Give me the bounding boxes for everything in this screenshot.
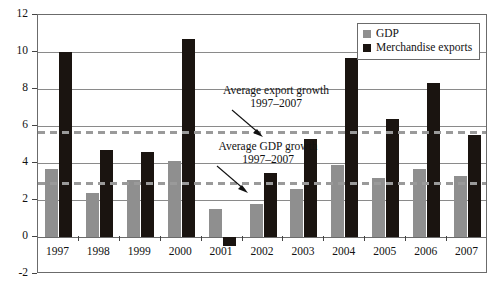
y-tick-label-8: 8	[2, 82, 28, 94]
gridline-0	[38, 237, 486, 238]
y-tick-label-0: 0	[2, 230, 28, 242]
bar-gdp-2000	[168, 161, 181, 237]
annotation-export-line2: 1997–2007	[196, 97, 356, 110]
annotation-average-gdp-growth: Average GDP growth 1997–2007	[188, 140, 348, 166]
legend-item-exp[interactable]: Merchandise exports	[363, 41, 472, 55]
x-tick-label-2004: 2004	[324, 246, 364, 258]
y-tick-label-10: 10	[2, 45, 28, 57]
x-tick-label-2000: 2000	[160, 246, 200, 258]
annotation-average-export-growth: Average export growth 1997–2007	[196, 84, 356, 110]
chart-legend: GDPMerchandise exports	[357, 23, 480, 60]
y-tick-label-12: 12	[2, 8, 28, 20]
legend-swatch-exp-icon	[363, 44, 371, 52]
annotation-gdp-line1: Average GDP growth	[188, 140, 348, 153]
x-tick-mark-10	[446, 236, 447, 241]
y-tick-label-6: 6	[2, 119, 28, 131]
y-tick-label-4: 4	[2, 156, 28, 168]
x-tick-mark-4	[201, 236, 202, 241]
x-tick-mark-9	[405, 236, 406, 241]
y-tick-label--2: -2	[2, 267, 28, 279]
reference-line-average-gdp-growth	[38, 182, 486, 185]
annotation-export-arrow-icon	[230, 108, 270, 142]
legend-swatch-gdp-icon	[363, 30, 371, 38]
bar-exports-2000	[182, 39, 195, 237]
x-tick-label-2002: 2002	[242, 246, 282, 258]
bar-gdp-2004	[331, 165, 344, 237]
legend-label-gdp: GDP	[376, 28, 399, 40]
annotation-export-line1: Average export growth	[196, 84, 356, 97]
bar-gdp-2003	[290, 189, 303, 237]
bar-exports-1999	[141, 152, 154, 237]
bar-gdp-2001	[209, 209, 222, 237]
x-tick-label-2001: 2001	[201, 246, 241, 258]
legend-label-exp: Merchandise exports	[376, 42, 472, 54]
bar-exports-2006	[427, 83, 440, 237]
annotation-gdp-arrow-icon	[215, 164, 255, 198]
y-tick-label-2: 2	[2, 193, 28, 205]
x-tick-mark-7	[323, 236, 324, 241]
x-tick-mark-2	[119, 236, 120, 241]
x-tick-mark-8	[364, 236, 365, 241]
x-tick-mark-6	[282, 236, 283, 241]
bar-exports-1998	[100, 150, 113, 237]
x-tick-mark-5	[242, 236, 243, 241]
bar-exports-1997	[59, 52, 72, 237]
y-tick-mark--2	[32, 273, 37, 274]
x-tick-mark-3	[160, 236, 161, 241]
x-tick-label-2006: 2006	[406, 246, 446, 258]
legend-item-gdp[interactable]: GDP	[363, 27, 472, 41]
bar-exports-2007	[468, 135, 481, 237]
x-tick-label-1999: 1999	[119, 246, 159, 258]
bar-gdp-2006	[413, 169, 426, 237]
x-tick-label-1997: 1997	[37, 246, 77, 258]
bar-gdp-2005	[372, 178, 385, 237]
bar-exports-2005	[386, 119, 399, 237]
x-tick-label-2007: 2007	[447, 246, 487, 258]
bar-gdp-1997	[45, 169, 58, 237]
annotation-gdp-line2: 1997–2007	[188, 153, 348, 166]
x-tick-mark-1	[78, 236, 79, 241]
x-tick-label-2005: 2005	[365, 246, 405, 258]
bar-gdp-2002	[250, 204, 263, 237]
bar-gdp-1998	[86, 193, 99, 237]
bar-chart: 121086420-2 1997199819992000200120022003…	[0, 0, 497, 290]
bar-gdp-1999	[127, 180, 140, 237]
x-tick-label-1998: 1998	[78, 246, 118, 258]
x-tick-label-2003: 2003	[283, 246, 323, 258]
